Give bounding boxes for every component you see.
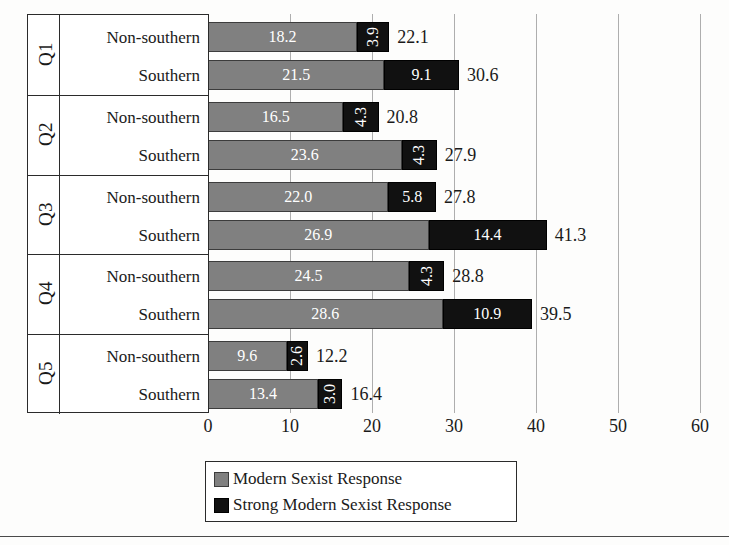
gridline-60	[700, 14, 701, 413]
stacked-bar-chart-figure: 18.23.922.121.59.130.616.54.320.823.64.3…	[0, 0, 729, 545]
bar-total-label: 12.2	[316, 347, 348, 365]
bar-segment-modern: 24.5	[208, 261, 409, 291]
bar-segment-strong: 9.1	[384, 60, 459, 90]
bar-row: 26.914.4	[208, 220, 547, 250]
x-tick-label-0: 0	[188, 416, 228, 437]
bar-total-label: 27.9	[445, 146, 477, 164]
group-label-q1: Q1	[35, 14, 57, 94]
x-tick-label-20: 20	[352, 416, 392, 437]
x-tick-label-10: 10	[270, 416, 310, 437]
bar-total-label: 39.5	[540, 305, 572, 323]
bar-value-modern: 26.9	[304, 227, 332, 243]
bar-value-modern: 24.5	[294, 268, 322, 284]
bar-total-label: 20.8	[387, 108, 419, 126]
bar-value-modern: 28.6	[311, 306, 339, 322]
bar-value-strong: 4.3	[353, 107, 369, 127]
bar-segment-strong: 4.3	[402, 140, 437, 170]
gridline-40	[536, 14, 537, 413]
x-tick-label-40: 40	[516, 416, 556, 437]
bar-value-strong: 4.3	[411, 145, 427, 165]
bar-segment-modern: 18.2	[208, 22, 357, 52]
bar-total-label: 22.1	[397, 28, 429, 46]
bar-value-modern: 21.5	[282, 67, 310, 83]
bar-value-modern: 22.0	[284, 189, 312, 205]
category-label-box: Q1Non-southernSouthernQ2Non-southernSout…	[27, 14, 208, 413]
plot-area: 18.23.922.121.59.130.616.54.320.823.64.3…	[27, 14, 700, 413]
bar-row: 13.43.0	[208, 379, 342, 409]
bar-value-strong: 4.3	[419, 266, 435, 286]
row-label-q3-non-southern: Non-southern	[60, 189, 200, 206]
bar-segment-strong: 2.6	[287, 341, 308, 371]
bar-total-label: 41.3	[555, 226, 587, 244]
row-label-q5-southern: Southern	[60, 386, 200, 403]
legend-swatch-strong-icon	[214, 498, 229, 513]
bar-row: 16.54.3	[208, 102, 379, 132]
bar-segment-strong: 4.3	[409, 261, 444, 291]
bar-row: 22.05.8	[208, 182, 436, 212]
bar-segment-strong: 3.9	[357, 22, 389, 52]
chart-legend: Modern Sexist Response Strong Modern Sex…	[205, 461, 517, 522]
bar-segment-modern: 28.6	[208, 299, 443, 329]
bar-total-label: 28.8	[452, 267, 484, 285]
legend-item-strong: Strong Modern Sexist Response	[214, 492, 516, 518]
bar-segment-strong: 14.4	[429, 220, 547, 250]
bar-segment-strong: 5.8	[388, 182, 436, 212]
x-tick-label-30: 30	[434, 416, 474, 437]
bar-segment-modern: 22.0	[208, 182, 388, 212]
bar-segment-modern: 26.9	[208, 220, 429, 250]
bar-value-strong: 2.6	[289, 346, 305, 366]
bar-row: 24.54.3	[208, 261, 444, 291]
row-label-q4-non-southern: Non-southern	[60, 268, 200, 285]
group-label-q3: Q3	[35, 174, 57, 254]
bar-value-modern: 23.6	[291, 147, 319, 163]
group-label-q2: Q2	[35, 94, 57, 174]
bar-total-label: 27.8	[444, 188, 476, 206]
bar-value-modern: 13.4	[249, 386, 277, 402]
bar-segment-modern: 16.5	[208, 102, 343, 132]
axis-line-zero	[208, 14, 209, 413]
bar-value-strong: 5.8	[402, 189, 422, 205]
row-label-q3-southern: Southern	[60, 227, 200, 244]
legend-label-strong: Strong Modern Sexist Response	[233, 495, 452, 515]
bar-total-label: 30.6	[467, 66, 499, 84]
x-tick-label-60: 60	[680, 416, 720, 437]
bar-total-label: 16.4	[350, 385, 382, 403]
bar-value-modern: 9.6	[237, 348, 257, 364]
bar-row: 18.23.9	[208, 22, 389, 52]
bar-value-strong: 14.4	[474, 227, 502, 243]
bar-value-modern: 18.2	[269, 29, 297, 45]
row-label-q4-southern: Southern	[60, 306, 200, 323]
bar-segment-modern: 9.6	[208, 341, 287, 371]
bar-row: 9.62.6	[208, 341, 308, 371]
group-label-q5: Q5	[35, 333, 57, 413]
footer-divider	[0, 536, 729, 537]
row-label-q2-southern: Southern	[60, 147, 200, 164]
legend-label-modern: Modern Sexist Response	[233, 469, 402, 489]
bar-segment-strong: 4.3	[343, 102, 378, 132]
row-label-q1-non-southern: Non-southern	[60, 29, 200, 46]
x-axis-tick-labels: 0102030405060	[27, 416, 727, 442]
row-label-q1-southern: Southern	[60, 67, 200, 84]
bar-value-strong: 3.0	[322, 384, 338, 404]
bar-segment-modern: 13.4	[208, 379, 318, 409]
bar-segment-strong: 10.9	[443, 299, 532, 329]
bar-segment-modern: 23.6	[208, 140, 402, 170]
legend-swatch-modern-icon	[214, 472, 229, 487]
row-label-q2-non-southern: Non-southern	[60, 109, 200, 126]
legend-item-modern: Modern Sexist Response	[214, 466, 516, 492]
bar-row: 23.64.3	[208, 140, 437, 170]
bar-row: 28.610.9	[208, 299, 532, 329]
bar-segment-strong: 3.0	[318, 379, 343, 409]
bar-value-strong: 3.9	[365, 27, 381, 47]
bar-value-strong: 9.1	[412, 67, 432, 83]
gridline-50	[618, 14, 619, 413]
bar-value-strong: 10.9	[473, 306, 501, 322]
bar-value-modern: 16.5	[262, 109, 290, 125]
group-label-q4: Q4	[35, 253, 57, 333]
row-label-q5-non-southern: Non-southern	[60, 348, 200, 365]
axis-region: 18.23.922.121.59.130.616.54.320.823.64.3…	[208, 14, 700, 413]
bar-row: 21.59.1	[208, 60, 459, 90]
bar-segment-modern: 21.5	[208, 60, 384, 90]
x-tick-label-50: 50	[598, 416, 638, 437]
